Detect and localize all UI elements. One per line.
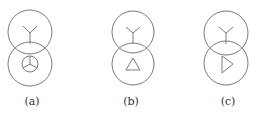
wye-icon — [126, 27, 140, 44]
figure-a — [8, 10, 52, 86]
open-triangle-icon — [222, 56, 233, 73]
label-c: (c) — [208, 95, 248, 108]
figure-c — [204, 11, 248, 85]
secondary-winding-circle — [204, 41, 248, 85]
wye-in-circle-icon — [22, 56, 38, 72]
figure-b — [112, 11, 154, 85]
wye-icon — [23, 26, 37, 44]
delta-icon — [126, 58, 140, 70]
label-b: (b) — [111, 95, 151, 108]
primary-winding-circle — [112, 11, 154, 53]
label-a: (a) — [12, 95, 52, 108]
primary-winding-circle — [8, 10, 52, 54]
secondary-winding-circle — [112, 43, 154, 85]
